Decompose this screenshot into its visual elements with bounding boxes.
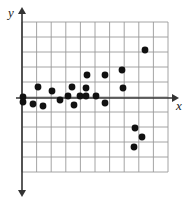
data-point	[131, 144, 138, 151]
plot-canvas: x y	[0, 0, 194, 202]
data-point	[83, 93, 90, 100]
y-axis-arrow-down-icon	[18, 190, 26, 197]
data-point	[49, 88, 56, 95]
data-point	[83, 85, 90, 92]
data-point	[30, 101, 37, 108]
data-point	[71, 102, 78, 109]
data-point	[142, 47, 149, 54]
data-point	[65, 93, 72, 100]
data-point	[132, 125, 139, 132]
data-point	[119, 67, 126, 74]
data-point	[120, 85, 127, 92]
scatter-plot-figure: x y	[0, 0, 194, 202]
data-point	[69, 84, 76, 91]
data-point	[93, 93, 100, 100]
data-point	[139, 134, 146, 141]
x-axis-label: x	[175, 98, 182, 113]
y-axis-arrow-up-icon	[18, 7, 26, 14]
y-axis-label: y	[6, 5, 14, 20]
data-point	[20, 99, 27, 106]
data-point	[102, 100, 109, 107]
data-point	[35, 84, 42, 91]
data-point	[40, 103, 47, 110]
data-point	[77, 93, 84, 100]
data-point	[57, 97, 64, 104]
data-point	[84, 72, 91, 79]
axis-lines	[16, 7, 179, 197]
data-point	[102, 72, 109, 79]
